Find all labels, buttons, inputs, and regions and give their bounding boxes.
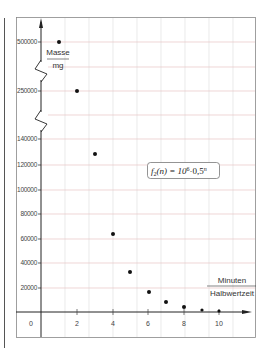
y-axis-break-upper — [35, 60, 48, 82]
y-tick-label: 20000 — [20, 284, 37, 291]
y-tick-label: 120000 — [17, 161, 38, 168]
data-point — [128, 270, 132, 274]
data-point — [164, 300, 168, 304]
y-label-bottom: mg — [52, 61, 63, 70]
x-tick-label: 10 — [215, 320, 223, 327]
data-point — [200, 308, 203, 311]
y-tick-label: 140000 — [17, 135, 38, 142]
y-axis-break-lower — [35, 110, 48, 132]
data-point — [75, 89, 79, 93]
data-point — [57, 40, 61, 44]
data-point — [217, 309, 220, 312]
data-point — [93, 152, 97, 156]
function-label: f2(n) = 106·0,5n — [151, 166, 207, 177]
data-point — [111, 232, 115, 236]
y-tick-label: 40000 — [20, 259, 37, 266]
y-tick-label: 100000 — [17, 186, 38, 193]
y-tick-label: 250000 — [17, 87, 38, 94]
x-label-top: Minuten — [218, 276, 246, 285]
y-tick-label: 80000 — [20, 210, 37, 217]
data-point — [182, 305, 186, 309]
x-tick-label: 8 — [182, 320, 186, 327]
function-label-box: f2(n) = 106·0,5n — [148, 163, 220, 179]
y-tick-label: 60000 — [20, 235, 37, 242]
y-label-top: Masse — [46, 48, 70, 57]
x-tick-label: 6 — [146, 320, 150, 327]
x-label-bottom: Halbwertzeit — [210, 289, 255, 298]
y-tick-label: 500000 — [17, 38, 38, 45]
x-tick-label: 4 — [111, 320, 115, 327]
x-tick-label: 2 — [75, 320, 79, 327]
data-point — [147, 290, 151, 294]
decay-chart: 5000002500001400001200001000008000060000… — [0, 0, 268, 349]
x-tick-label: 0 — [29, 320, 33, 327]
